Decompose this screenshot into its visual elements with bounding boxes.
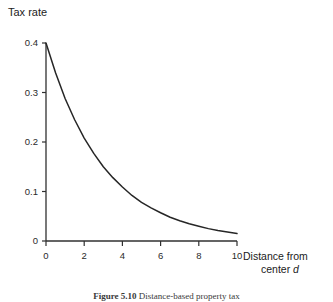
x-tick-label: 2 bbox=[82, 250, 87, 261]
x-tick-label: 4 bbox=[120, 250, 125, 261]
y-tick-label: 0.4 bbox=[25, 37, 38, 48]
x-tick-label: 10 bbox=[232, 250, 243, 261]
x-axis-ticks: 0246810 bbox=[43, 241, 242, 261]
data-series-line bbox=[46, 43, 237, 234]
x-tick-label: 6 bbox=[158, 250, 163, 261]
x-tick-label: 8 bbox=[196, 250, 201, 261]
x-axis-label-variable: d bbox=[293, 263, 299, 275]
figure-caption: Figure 5.10 Distance-based property tax bbox=[0, 291, 333, 302]
figure-caption-label: Figure 5.10 bbox=[93, 291, 136, 301]
x-tick-label: 0 bbox=[43, 250, 48, 261]
x-axis-label-line2: center d bbox=[243, 263, 333, 276]
x-axis-label: Distance from center d bbox=[243, 250, 333, 275]
x-axis-label-line2-text: center bbox=[261, 263, 293, 275]
y-tick-label: 0.3 bbox=[25, 87, 38, 98]
axes bbox=[46, 43, 237, 241]
y-tick-label: 0 bbox=[33, 235, 38, 246]
x-axis-label-line1: Distance from bbox=[243, 250, 308, 262]
y-tick-label: 0.2 bbox=[25, 136, 38, 147]
y-tick-label: 0.1 bbox=[25, 186, 38, 197]
y-axis-ticks: 00.10.20.30.4 bbox=[25, 37, 46, 246]
figure-caption-text: Distance-based property tax bbox=[139, 291, 240, 301]
